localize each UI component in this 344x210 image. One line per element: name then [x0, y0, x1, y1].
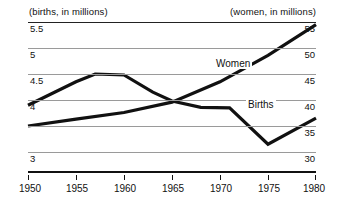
x-label-1950: 1950 — [19, 183, 41, 194]
left-tick-5p5: 5.5 — [30, 24, 43, 34]
chart-figure: (births, in millions) (women, in million… — [0, 0, 344, 210]
x-label-1955: 1955 — [66, 183, 88, 194]
x-tick-1965 — [172, 175, 173, 180]
gridline-5 — [28, 48, 316, 49]
left-tick-3: 3 — [30, 154, 35, 164]
x-tick-1960 — [124, 175, 125, 180]
right-tick-40: 40 — [304, 102, 315, 112]
x-axis-line — [28, 171, 316, 173]
right-tick-55: 55 — [304, 24, 315, 34]
right-axis-caption: (women, in millions) — [230, 6, 316, 17]
x-label-1975: 1975 — [258, 183, 280, 194]
right-tick-30: 30 — [304, 154, 315, 164]
x-tick-1950 — [28, 175, 29, 180]
gridline-4p5 — [28, 74, 316, 75]
right-tick-50: 50 — [304, 50, 315, 60]
series-lines — [28, 22, 316, 152]
women-line — [28, 25, 316, 126]
x-tick-1955 — [76, 175, 77, 180]
right-tick-45: 45 — [304, 76, 315, 86]
x-tick-1980 — [315, 175, 316, 180]
plot-area: Women Births — [28, 22, 316, 152]
left-axis-caption: (births, in millions) — [29, 6, 108, 17]
left-tick-4p5: 4.5 — [30, 76, 43, 86]
x-label-1970: 1970 — [210, 183, 232, 194]
x-label-1965: 1965 — [162, 183, 184, 194]
left-tick-5: 5 — [30, 50, 35, 60]
x-label-1960: 1960 — [114, 183, 136, 194]
x-label-1980: 1980 — [303, 183, 325, 194]
series-label-births: Births — [246, 99, 276, 110]
gridline-top — [28, 22, 316, 23]
right-tick-35: 35 — [304, 128, 315, 138]
left-tick-4: 4 — [30, 102, 35, 112]
gridline-3p5 — [28, 126, 316, 127]
gridline-3 — [28, 152, 316, 153]
series-label-women: Women — [214, 58, 252, 69]
x-tick-1975 — [268, 175, 269, 180]
x-tick-1970 — [220, 175, 221, 180]
